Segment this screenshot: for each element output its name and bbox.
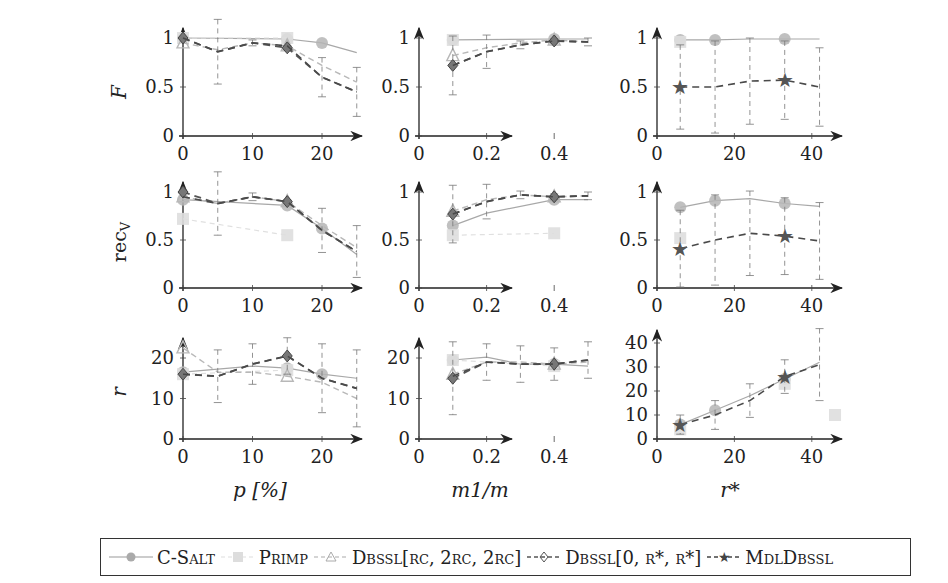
panel-r1-c0: 00.5101020 <box>145 172 362 316</box>
x-tick-label: 20 <box>311 446 334 467</box>
y-tick-label: 0 <box>637 277 648 298</box>
x-tick-label: 0.4 <box>540 446 569 467</box>
y-tick-label: 0.5 <box>145 76 174 97</box>
x-tick-label: 0.2 <box>472 143 501 164</box>
y-tick-label: 0 <box>163 428 174 449</box>
col-title-rstar: r* <box>720 478 740 502</box>
x-tick-label: 20 <box>311 143 334 164</box>
row-title-F: F <box>107 84 131 100</box>
row-title-recV: recV <box>108 221 133 262</box>
y-tick-label: 20 <box>625 380 648 401</box>
y-tick-label: 0 <box>163 125 174 146</box>
y-tick-label: 0.5 <box>619 76 648 97</box>
legend: C-Salt Primp Dbssl[rc, 2rc, 2rc] Dbssl[0… <box>100 538 911 576</box>
x-tick-label: 0 <box>177 143 188 164</box>
x-tick-label: 40 <box>800 446 823 467</box>
legend-line-star-icon: ★ <box>707 550 741 564</box>
panel-r2-c1: 0102000.20.4 <box>387 338 592 467</box>
panel-r0-c0: 00.5101020 <box>145 19 362 164</box>
legend-line-diamond-icon <box>527 550 561 564</box>
svg-text:★: ★ <box>776 68 794 92</box>
x-tick-label: 0.4 <box>540 295 569 316</box>
x-tick-label: 40 <box>800 143 823 164</box>
y-tick-label: 1 <box>163 27 174 48</box>
panel-r1-c2: 00.5102040★★ <box>619 181 842 316</box>
y-tick-label: 0.5 <box>381 76 410 97</box>
y-tick-label: 0 <box>163 277 174 298</box>
panel-r1-c1: 00.5100.20.4 <box>381 181 592 316</box>
x-tick-label: 0.2 <box>472 446 501 467</box>
y-tick-label: 0 <box>399 277 410 298</box>
svg-text:★: ★ <box>671 413 689 437</box>
x-tick-label: 0.4 <box>540 143 569 164</box>
legend-item-csalt: C-Salt <box>109 547 215 568</box>
svg-text:★: ★ <box>718 550 731 564</box>
legend-line-circle-icon <box>109 550 153 564</box>
y-tick-label: 40 <box>625 332 648 353</box>
x-tick-label: 0.2 <box>472 295 501 316</box>
y-tick-label: 10 <box>151 388 174 409</box>
legend-item-primp: Primp <box>221 547 308 568</box>
x-tick-label: 20 <box>311 295 334 316</box>
y-tick-label: 1 <box>637 181 648 202</box>
svg-text:★: ★ <box>671 237 689 261</box>
panel-r2-c0: 0102001020 <box>151 338 362 467</box>
x-tick-label: 0 <box>177 446 188 467</box>
y-tick-label: 0.5 <box>619 229 648 250</box>
y-tick-label: 1 <box>399 27 410 48</box>
x-tick-label: 40 <box>800 295 823 316</box>
col-title-m1m: m1/m <box>451 478 508 502</box>
y-tick-label: 0 <box>399 428 410 449</box>
x-tick-label: 20 <box>723 446 746 467</box>
y-tick-label: 1 <box>637 27 648 48</box>
x-tick-label: 0 <box>651 143 662 164</box>
y-tick-label: 20 <box>151 347 174 368</box>
y-tick-label: 0.5 <box>381 229 410 250</box>
x-tick-label: 0 <box>413 295 424 316</box>
y-tick-label: 0 <box>637 428 648 449</box>
y-tick-label: 0 <box>399 125 410 146</box>
figure-grid: 00.510102000.5100.20.400.5102040★★00.510… <box>0 0 948 583</box>
x-tick-label: 10 <box>241 295 264 316</box>
svg-text:★: ★ <box>671 75 689 99</box>
x-tick-label: 0 <box>177 295 188 316</box>
x-tick-label: 0 <box>651 446 662 467</box>
panel-r0-c1: 00.5100.20.4 <box>381 27 592 164</box>
svg-text:★: ★ <box>776 224 794 248</box>
y-tick-label: 10 <box>625 404 648 425</box>
x-tick-label: 0 <box>413 446 424 467</box>
y-tick-label: 0.5 <box>145 229 174 250</box>
col-title-p: p [%] <box>233 478 287 502</box>
row-title-r: r <box>107 386 131 397</box>
x-tick-label: 10 <box>241 143 264 164</box>
y-tick-label: 20 <box>387 347 410 368</box>
y-tick-label: 0 <box>637 125 648 146</box>
y-tick-label: 1 <box>163 181 174 202</box>
x-tick-label: 10 <box>241 446 264 467</box>
y-tick-label: 30 <box>625 356 648 377</box>
panel-r2-c2: 01020304002040★★ <box>625 329 842 467</box>
legend-line-triangle-icon <box>314 550 348 564</box>
x-tick-label: 0 <box>651 295 662 316</box>
y-tick-label: 10 <box>387 388 410 409</box>
legend-item-mdldbssl: ★ MdlDbssl <box>707 547 833 568</box>
svg-text:★: ★ <box>776 365 794 389</box>
legend-item-dbssl-rc: Dbssl[rc, 2rc, 2rc] <box>314 547 521 568</box>
legend-item-dbssl-0: Dbssl[0, r*, r*] <box>527 547 701 568</box>
x-tick-label: 20 <box>723 295 746 316</box>
x-tick-label: 0 <box>413 143 424 164</box>
y-tick-label: 1 <box>399 181 410 202</box>
panel-r0-c2: 00.5102040★★ <box>619 27 842 164</box>
x-tick-label: 20 <box>723 143 746 164</box>
legend-line-square-icon <box>221 550 255 564</box>
